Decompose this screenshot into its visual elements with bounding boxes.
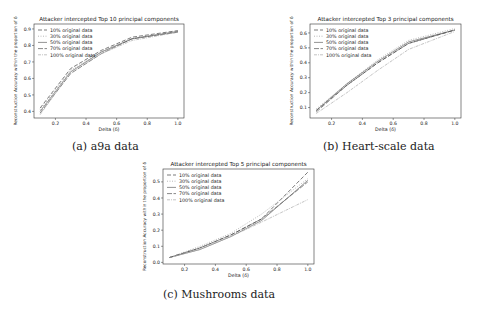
chart-panel-heart-scale: Attacker intercepted Top 3 principal com… <box>240 0 477 135</box>
x-tick-label: 0.2 <box>52 121 59 126</box>
y-tick-label: 0.4 <box>153 196 160 201</box>
legend-entry: 100% original data <box>179 198 225 203</box>
legend-entry: 50% original data <box>50 40 93 45</box>
x-axis-label: Delta (δ) <box>228 273 249 278</box>
legend-entry: 100% original data <box>50 53 96 58</box>
y-tick-label: 0.7 <box>24 60 31 65</box>
x-tick-label: 0.8 <box>144 121 151 126</box>
y-tick-label: 0.8 <box>24 43 31 48</box>
legend-entry: 30% original data <box>50 34 93 39</box>
line-chart-heart-scale: Attacker intercepted Top 3 principal com… <box>240 0 477 135</box>
x-tick-label: 0.4 <box>212 267 219 272</box>
y-tick-label: 0.5 <box>24 93 31 98</box>
y-axis-label: Reconstruction Accuracy within the propo… <box>289 16 294 126</box>
x-tick-label: 0.2 <box>181 267 188 272</box>
legend-entry: 30% original data <box>179 179 222 184</box>
x-tick-label: 0.4 <box>82 121 89 126</box>
y-tick-label: 0.2 <box>153 228 160 233</box>
caption-mushrooms: (c) Mushrooms data <box>163 288 275 301</box>
legend-entry: 10% original data <box>179 173 222 178</box>
y-axis-label: Reconstruction Accuracy within the propo… <box>142 162 147 272</box>
legend-entry: 70% original data <box>179 191 222 196</box>
x-axis-label: Delta (δ) <box>98 127 119 132</box>
legend: 10% original data30% original data50% or… <box>167 173 225 203</box>
legend-entry: 30% original data <box>326 34 369 39</box>
x-tick-label: 0.4 <box>359 121 366 126</box>
y-tick-label: 0.2 <box>300 90 307 95</box>
y-tick-label: 0.4 <box>300 60 307 65</box>
legend-entry: 50% original data <box>179 185 222 190</box>
y-axis-label: Reconstruction Accuracy within the propo… <box>13 16 18 126</box>
legend: 10% original data30% original data50% or… <box>314 28 372 58</box>
legend-entry: 10% original data <box>326 28 369 33</box>
caption-a9a: (a) a9a data <box>72 140 139 153</box>
x-tick-label: 0.6 <box>113 121 120 126</box>
x-tick-label: 1.0 <box>174 121 181 126</box>
y-tick-label: 0.3 <box>153 212 160 217</box>
x-tick-label: 1.0 <box>451 121 458 126</box>
x-tick-label: 0.8 <box>273 267 280 272</box>
chart-panel-a9a: Attacker intercepted Top 10 principal co… <box>0 0 240 135</box>
caption-heart-scale: (b) Heart-scale data <box>323 140 435 153</box>
legend-entry: 100% original data <box>326 53 372 58</box>
y-tick-label: 0.6 <box>300 31 307 36</box>
y-tick-label: 0.4 <box>24 109 31 114</box>
y-tick-label: 0.9 <box>24 27 31 32</box>
y-tick-label: 0.1 <box>153 244 160 249</box>
x-tick-label: 0.6 <box>243 267 250 272</box>
x-tick-label: 0.8 <box>420 121 427 126</box>
chart-panel-mushrooms: Attacker intercepted Top 5 principal com… <box>120 155 360 280</box>
y-tick-label: 0.5 <box>153 179 160 184</box>
legend-entry: 50% original data <box>326 40 369 45</box>
y-tick-label: 0.0 <box>153 260 160 265</box>
x-tick-label: 1.0 <box>304 267 311 272</box>
y-tick-label: 0.3 <box>300 75 307 80</box>
line-chart-mushrooms: Attacker intercepted Top 5 principal com… <box>120 155 360 280</box>
chart-title: Attacker intercepted Top 3 principal com… <box>317 16 453 23</box>
chart-title: Attacker intercepted Top 5 principal com… <box>170 161 306 168</box>
x-tick-label: 0.2 <box>328 121 335 126</box>
x-axis-label: Delta (δ) <box>375 127 396 132</box>
chart-title: Attacker intercepted Top 10 principal co… <box>39 16 179 23</box>
x-tick-label: 0.6 <box>390 121 397 126</box>
y-tick-label: 0.6 <box>24 76 31 81</box>
legend-entry: 70% original data <box>326 46 369 51</box>
legend-entry: 70% original data <box>50 46 93 51</box>
y-tick-label: 0.1 <box>300 105 307 110</box>
legend: 10% original data30% original data50% or… <box>38 28 96 58</box>
y-tick-label: 0.5 <box>300 45 307 50</box>
legend-entry: 10% original data <box>50 28 93 33</box>
line-chart-a9a: Attacker intercepted Top 10 principal co… <box>0 0 240 135</box>
